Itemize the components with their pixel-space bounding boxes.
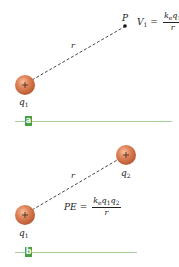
charge-q1-sphere-a — [15, 75, 35, 95]
equation-fraction: keq1 r — [163, 12, 179, 32]
charge-q1-label-b: q1 — [19, 229, 29, 239]
panel-b-badge: b — [25, 247, 32, 257]
charge-q2-label-b: q2 — [121, 169, 131, 179]
charge-q1-label-a: q1 — [19, 98, 29, 108]
fraction-denominator: r — [104, 208, 108, 217]
distance-label-b: r — [71, 172, 75, 180]
panel-a-baseline — [15, 121, 172, 122]
fraction-numerator: keq1 — [163, 12, 179, 23]
point-p-label: P — [122, 14, 128, 23]
equals-sign: = — [80, 202, 88, 212]
fraction-numerator: keq1q2 — [92, 197, 120, 208]
panel-b-baseline — [15, 252, 137, 253]
distance-line-a — [32, 27, 124, 80]
potential-equation: V1 = keq1 r — [137, 12, 179, 32]
equals-sign: = — [150, 17, 158, 27]
charge-q1-sphere-b — [15, 205, 35, 225]
fraction-denominator: r — [171, 23, 175, 32]
diagram-graphics — [0, 0, 179, 267]
equation-fraction: keq1q2 r — [92, 197, 120, 217]
panel-a-badge: a — [25, 116, 32, 126]
distance-label-a: r — [71, 42, 75, 50]
point-p-dot — [123, 24, 127, 28]
charge-q2-sphere-b — [116, 145, 136, 165]
potential-energy-equation: PE = keq1q2 r — [64, 197, 121, 217]
equation-lhs: PE — [64, 202, 77, 212]
equation-lhs: V1 — [137, 17, 147, 28]
